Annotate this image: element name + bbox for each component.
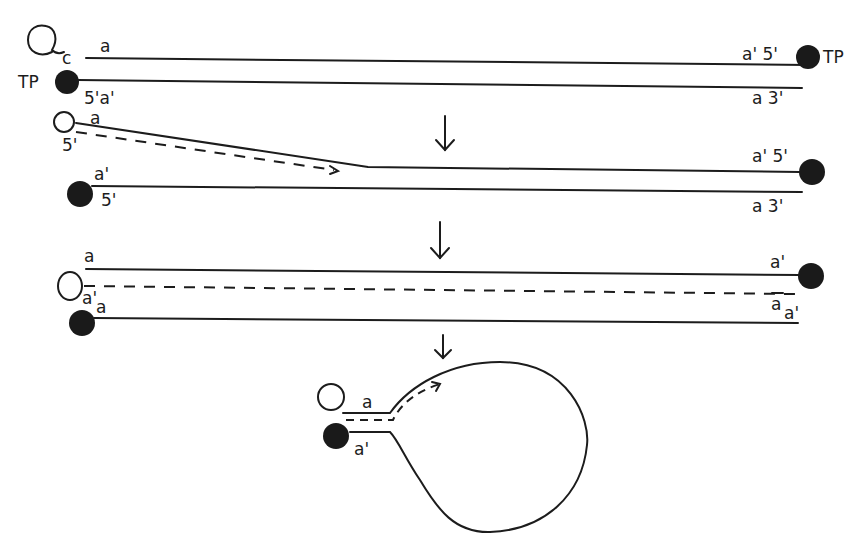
bottom-strand-5prime: 5' [101,190,117,210]
bottom-strand-label-left: a' [94,164,109,184]
terminal-protein-icon [798,263,824,289]
new-strand-label-right: a [771,294,781,314]
top-strand-label-left: a [84,246,94,266]
stage-1: c a a' 5' TP TP 5'a' a 3' [17,26,844,108]
stage-2: a 5' a' 5' a' 5' a 3' [54,108,825,216]
displaced-strand-label-right: a' 5' [752,146,788,166]
bottom-strand-label-left: 5'a' [84,88,115,108]
loop-icon [54,112,74,132]
tp-label-right: TP [822,47,844,67]
tp-label-left: TP [17,72,39,92]
loop-icon [28,26,64,55]
terminal-protein-icon [796,45,820,69]
panhandle-label-top: a [362,392,372,412]
bottom-strand-label-right: a 3' [752,196,783,216]
top-strand [86,58,808,65]
loop-icon [318,384,344,410]
displaced-strand-5prime: 5' [62,135,78,155]
new-strand-label-left: a' [82,288,97,308]
new-strand-dashed [346,384,440,420]
bottom-strand [78,80,802,88]
top-strand-label-left: a [100,36,110,56]
stage-4: a a' [318,362,587,532]
panhandle-label-bottom: a' [354,439,369,459]
new-strand-dashed [84,286,795,294]
terminal-protein-icon [69,310,95,336]
bottom-strand-label-right: a' [784,303,799,323]
stage-3: a a' a' a a a' [58,246,824,336]
bottom-strand-label-left: a [96,297,106,317]
terminal-protein-icon [67,181,93,207]
bottom-strand-label-right: a 3' [752,88,783,108]
bottom-strand [92,186,802,192]
terminal-protein-icon [55,70,79,94]
loop-icon [58,272,82,300]
down-arrow-icon [431,222,449,258]
terminal-protein-icon [323,423,349,449]
top-strand [86,269,800,275]
bottom-strand [94,318,798,323]
down-arrow-icon [436,116,454,150]
loop-label-c: c [62,48,71,68]
circular-strand [343,362,587,532]
down-arrow-icon [435,335,451,358]
top-strand-label-right: a' [770,252,785,272]
terminal-protein-icon [799,159,825,185]
top-strand-label-right: a' 5' [742,44,778,64]
diagram-canvas: c a a' 5' TP TP 5'a' a 3' a 5' a' 5' a' [0,0,867,552]
new-strand-dashed [76,132,334,170]
